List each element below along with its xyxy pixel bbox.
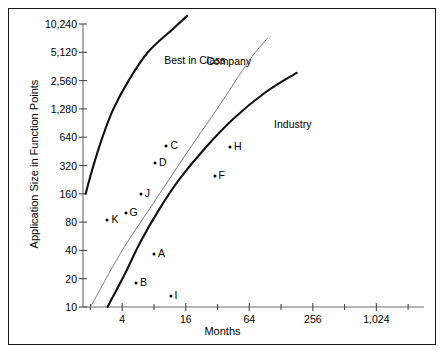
y-tick-label: 40 xyxy=(28,244,77,256)
y-tick-label: 80 xyxy=(28,216,77,228)
data-point-label-D: D xyxy=(159,156,167,168)
data-point-label-K: K xyxy=(111,213,118,225)
data-point-label-H: H xyxy=(234,140,242,152)
data-point-label-J: J xyxy=(145,187,150,199)
y-tick-label: 20 xyxy=(28,273,77,285)
x-axis-title: Months xyxy=(0,325,445,337)
data-point-label-I: I xyxy=(175,289,178,301)
x-tick-label: 256 xyxy=(304,313,322,325)
y-tick-label: 10,240 xyxy=(28,18,77,30)
data-point-label-F: F xyxy=(219,169,225,181)
y-tick-label: 1,280 xyxy=(28,103,77,115)
data-point-marker-K xyxy=(106,218,109,221)
x-tick-label: 1,024 xyxy=(363,313,389,325)
x-tick-label: 64 xyxy=(243,313,255,325)
data-point-marker-B xyxy=(134,282,137,285)
data-point-label-A: A xyxy=(158,247,165,259)
y-tick-label: 2,560 xyxy=(28,75,77,87)
data-point-marker-G xyxy=(124,211,127,214)
data-point-marker-D xyxy=(154,162,157,165)
data-point-label-G: G xyxy=(130,206,138,218)
y-tick-label: 10 xyxy=(28,301,77,313)
data-point-marker-C xyxy=(165,144,168,147)
y-tick-label: 320 xyxy=(28,160,77,172)
x-tick-label: 16 xyxy=(180,313,192,325)
data-point-marker-A xyxy=(152,252,155,255)
y-tick-label: 640 xyxy=(28,131,77,143)
data-point-label-C: C xyxy=(170,139,178,151)
curve-label-industry: Industry xyxy=(274,118,311,130)
y-tick-label: 160 xyxy=(28,188,77,200)
data-point-marker-H xyxy=(228,146,231,149)
data-point-label-B: B xyxy=(140,276,147,288)
data-point-marker-J xyxy=(139,192,142,195)
x-tick-label: 4 xyxy=(119,313,125,325)
y-tick-label: 5,120 xyxy=(28,46,77,58)
data-point-marker-I xyxy=(169,295,172,298)
curve-label-company: Company xyxy=(206,55,251,67)
data-point-marker-F xyxy=(213,174,216,177)
